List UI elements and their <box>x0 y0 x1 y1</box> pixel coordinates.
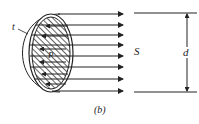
diameter-label: d <box>183 46 189 58</box>
thickness-leader <box>18 29 28 34</box>
thickness-label: t <box>12 21 15 32</box>
figure-caption: (b) <box>94 104 106 115</box>
pressure-label: P <box>48 50 54 60</box>
stress-label: S <box>134 45 140 57</box>
